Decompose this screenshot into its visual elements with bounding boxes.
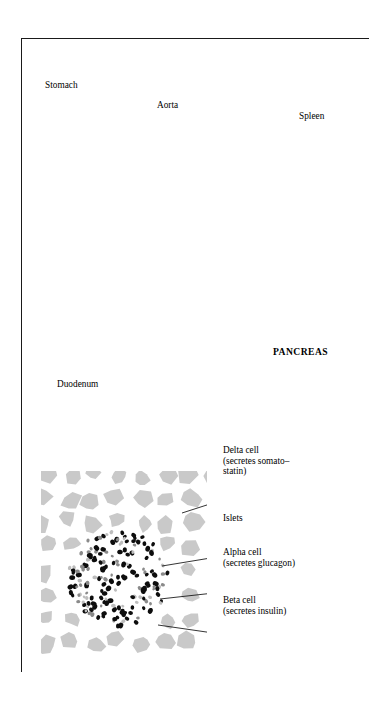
label-aorta: Aorta <box>157 100 178 111</box>
label-delta-cell: Delta cell (secretes somato– statin) <box>223 445 289 477</box>
label-islets: Islets <box>223 513 243 524</box>
label-stomach: Stomach <box>45 80 78 91</box>
label-pancreas: PANCREAS <box>273 347 328 358</box>
label-duodenum: Duodenum <box>57 379 98 390</box>
figure-frame: FIG. 1: THE HUMAN PANCREAS <box>21 38 369 672</box>
label-beta-cell: Beta cell (secretes insulin) <box>223 595 286 616</box>
label-alpha-cell: Alpha cell (secretes glucagon) <box>223 547 295 568</box>
label-spleen: Spleen <box>299 111 324 122</box>
islet-of-langerhans <box>66 529 170 629</box>
